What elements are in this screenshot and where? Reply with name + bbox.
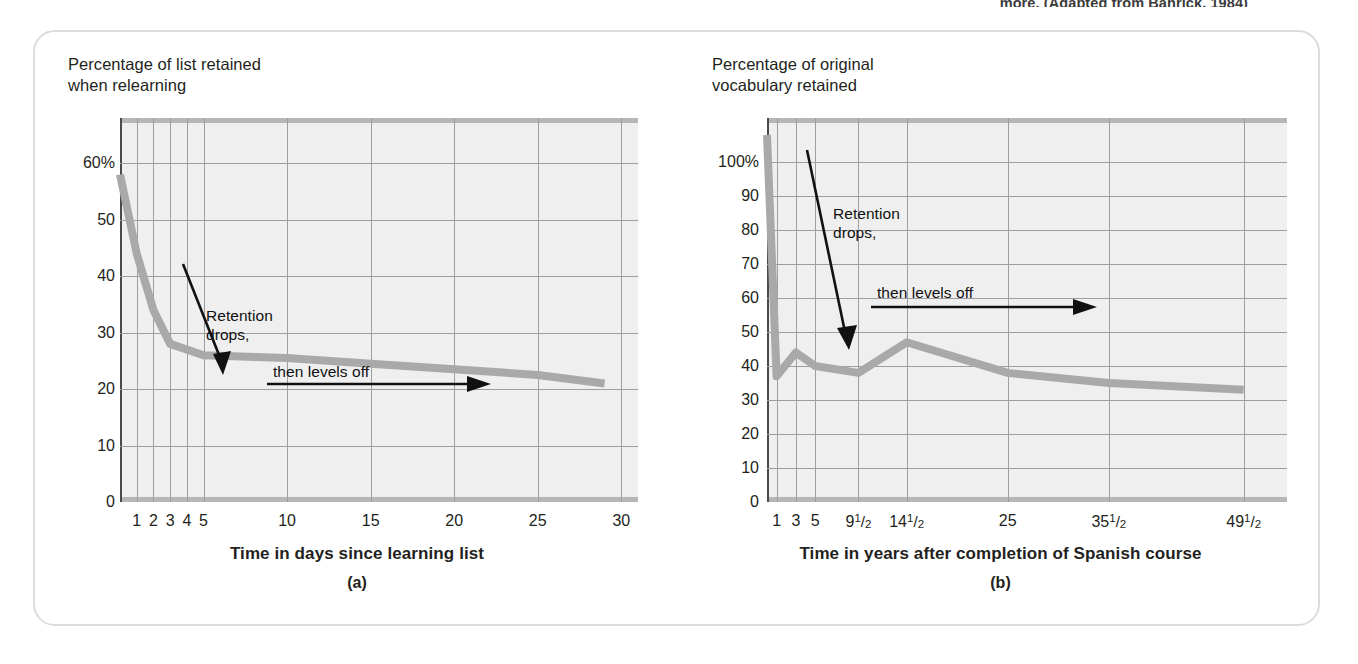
gridline-vertical [137, 118, 138, 502]
plot-top-edge [767, 118, 1287, 123]
panel-b-x-axis-label: Time in years after completion of Spanis… [679, 544, 1322, 564]
gridline-vertical [538, 118, 539, 502]
panel-b-annotation-level: then levels off [877, 283, 973, 302]
gridline-horizontal [767, 468, 1287, 469]
gridline-vertical [1109, 118, 1110, 502]
gridline-vertical [796, 118, 797, 502]
panel-b-y-axis-title: Percentage of original vocabulary retain… [712, 54, 874, 96]
y-tick-label: 10 [741, 459, 759, 477]
gridline-vertical [153, 118, 154, 502]
gridline-vertical [170, 118, 171, 502]
panel-a-y-ticks: 0102030405060% [53, 118, 115, 502]
gridline-horizontal [120, 446, 638, 447]
gridline-vertical [187, 118, 188, 502]
panel-a-annotation-level: then levels off [273, 362, 369, 381]
x-tick-label: 1 [772, 512, 781, 530]
top-caption-text: more. (Adapted from Bahrick, 1984) [0, 0, 1358, 7]
gridline-horizontal [120, 276, 638, 277]
panel-a: Percentage of list retained when relearn… [35, 32, 679, 628]
gridline-horizontal [767, 434, 1287, 435]
gridline-vertical [777, 118, 778, 502]
plot-bottom-edge [767, 497, 1287, 502]
gridline-horizontal [120, 163, 638, 164]
y-tick-label: 70 [741, 255, 759, 273]
x-tick-label: 5 [811, 512, 820, 530]
gridline-vertical [815, 118, 816, 502]
gridline-horizontal [767, 298, 1287, 299]
y-tick-label: 40 [741, 357, 759, 375]
plot-bottom-edge [120, 497, 638, 502]
x-tick-label: 15 [362, 512, 380, 530]
x-tick-label: 5 [199, 512, 208, 530]
x-tick-label: 20 [445, 512, 463, 530]
panel-b-annotation-drop: Retention drops, [833, 204, 900, 242]
panel-b-y-ticks: 0102030405060708090100% [697, 118, 759, 502]
gridline-vertical [858, 118, 859, 502]
gridline-horizontal [120, 220, 638, 221]
panel-a-x-ticks: 123451015202530 [120, 506, 638, 532]
x-tick-label: 3 [166, 512, 175, 530]
gridline-horizontal [767, 162, 1287, 163]
x-tick-label: 2 [149, 512, 158, 530]
panel-a-y-axis-title: Percentage of list retained when relearn… [68, 54, 261, 96]
x-tick-label: 141/2 [889, 512, 924, 531]
x-tick-label: 3 [791, 512, 800, 530]
y-tick-label: 0 [750, 493, 759, 511]
gridline-horizontal [767, 264, 1287, 265]
y-tick-label: 10 [97, 437, 115, 455]
panel-a-letter: (a) [35, 574, 679, 592]
y-tick-label: 0 [106, 493, 115, 511]
x-tick-label: 25 [999, 512, 1017, 530]
figure-page: more. (Adapted from Bahrick, 1984) Perce… [0, 0, 1358, 664]
panel-a-annotation-drop: Retention drops, [206, 306, 273, 344]
gridline-vertical [454, 118, 455, 502]
panel-b: Percentage of original vocabulary retain… [679, 32, 1322, 628]
y-tick-label: 90 [741, 187, 759, 205]
y-tick-label: 60% [83, 154, 115, 172]
panel-b-letter: (b) [679, 574, 1322, 592]
gridline-vertical [1008, 118, 1009, 502]
y-tick-label: 20 [741, 425, 759, 443]
y-axis-line [767, 118, 769, 502]
x-tick-label: 10 [278, 512, 296, 530]
y-tick-label: 30 [97, 324, 115, 342]
gridline-vertical [204, 118, 205, 502]
panel-b-x-ticks: 13591/2141/225351/2491/2 [767, 506, 1287, 532]
y-tick-label: 50 [97, 211, 115, 229]
x-tick-label: 4 [182, 512, 191, 530]
panel-a-x-axis-label: Time in days since learning list [35, 544, 679, 564]
gridline-vertical [287, 118, 288, 502]
x-tick-label: 30 [612, 512, 630, 530]
x-tick-label: 91/2 [845, 512, 871, 531]
y-tick-label: 50 [741, 323, 759, 341]
gridline-horizontal [120, 389, 638, 390]
y-axis-line [120, 118, 122, 502]
x-tick-label: 1 [132, 512, 141, 530]
plot-top-edge [120, 118, 638, 123]
y-tick-label: 100% [718, 153, 759, 171]
gridline-horizontal [767, 400, 1287, 401]
gridline-horizontal [767, 366, 1287, 367]
x-tick-label: 25 [529, 512, 547, 530]
gridline-horizontal [767, 196, 1287, 197]
gridline-vertical [1244, 118, 1245, 502]
gridline-horizontal [120, 333, 638, 334]
y-tick-label: 20 [97, 380, 115, 398]
gridline-vertical [907, 118, 908, 502]
x-tick-label: 491/2 [1226, 512, 1261, 531]
panel-b-plot-area [767, 118, 1287, 502]
panel-a-plot-area [120, 118, 638, 502]
gridline-horizontal [767, 332, 1287, 333]
gridline-vertical [621, 118, 622, 502]
x-tick-label: 351/2 [1091, 512, 1126, 531]
figure-card: Percentage of list retained when relearn… [33, 30, 1320, 626]
y-tick-label: 40 [97, 267, 115, 285]
y-tick-label: 60 [741, 289, 759, 307]
y-tick-label: 80 [741, 221, 759, 239]
y-tick-label: 30 [741, 391, 759, 409]
gridline-vertical [371, 118, 372, 502]
